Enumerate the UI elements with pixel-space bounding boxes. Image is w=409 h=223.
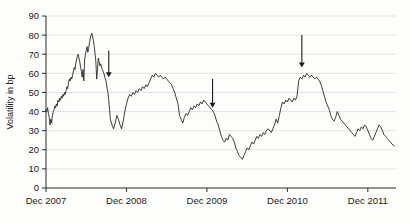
x-tick-label-group: Dec 2007Dec 2008Dec 2009Dec 2010Dec 2011: [26, 195, 388, 206]
y-tick-label: 30: [28, 125, 39, 136]
y-tick-group: [42, 16, 46, 188]
x-tick-label: Dec 2009: [187, 195, 228, 206]
x-tick-label: Dec 2007: [26, 195, 67, 206]
y-tick-label: 0: [34, 182, 39, 193]
gridlines-group: [46, 16, 396, 169]
volatility-series-line: [46, 33, 394, 159]
arrow-3: [299, 35, 305, 67]
arrow-2: [210, 79, 216, 108]
arrow-head: [299, 63, 305, 68]
x-tick-label: Dec 2008: [106, 195, 147, 206]
y-tick-label-group: 0102030405060708090: [28, 10, 39, 193]
y-axis-title: Volatility in bp: [5, 74, 15, 129]
arrow-head: [106, 72, 112, 77]
y-tick-label: 50: [28, 87, 39, 98]
y-tick-label: 80: [28, 30, 39, 41]
y-tick-label: 60: [28, 68, 39, 79]
x-tick-label: Dec 2011: [348, 195, 388, 206]
volatility-line-chart: 0102030405060708090 Dec 2007Dec 2008Dec …: [0, 0, 409, 223]
y-tick-label: 10: [28, 163, 39, 174]
chart-figure: 0102030405060708090 Dec 2007Dec 2008Dec …: [0, 0, 409, 223]
x-tick-label: Dec 2010: [267, 195, 308, 206]
y-tick-label: 90: [28, 10, 39, 21]
y-tick-label: 40: [28, 106, 39, 117]
y-tick-label: 20: [28, 144, 39, 155]
y-tick-label: 70: [28, 49, 39, 60]
x-tick-group: [46, 188, 368, 192]
arrow-annotation-group: [106, 35, 305, 108]
arrow-head: [210, 103, 216, 108]
